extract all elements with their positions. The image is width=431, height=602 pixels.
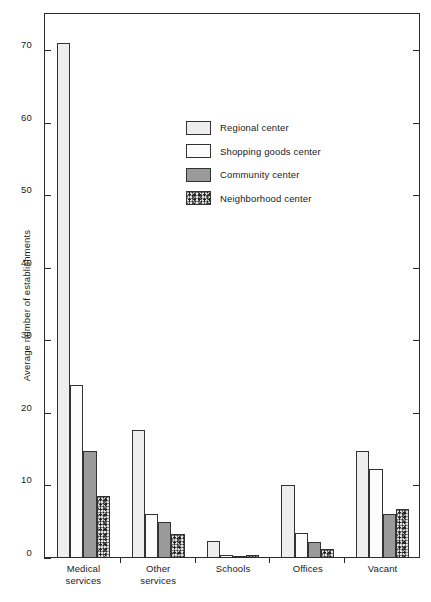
bar: [158, 522, 171, 558]
bar: [132, 430, 145, 558]
y-axis-title: Average number of establishments: [21, 176, 32, 436]
legend-label: Community center: [220, 169, 299, 180]
bar-group: [207, 14, 260, 558]
bar: [308, 542, 321, 558]
legend-item: Regional center: [186, 118, 366, 137]
bar: [383, 514, 396, 558]
x-axis-tick-mark: [120, 558, 121, 563]
x-axis-tick-label-line: Schools: [193, 563, 273, 575]
x-axis-tick-label: Otherservices: [118, 563, 198, 586]
bar-group-bars: [356, 14, 409, 558]
x-axis-tick-mark: [344, 558, 345, 563]
legend-swatch-neighborhood-center: [186, 191, 211, 205]
x-axis-tick-label-line: Vacant: [343, 563, 423, 575]
y-axis-tick-mark: [44, 558, 51, 559]
legend-item: Community center: [186, 165, 366, 184]
plot-area: [45, 14, 419, 558]
x-axis-tick-mark: [269, 558, 270, 563]
bar-group: [281, 14, 334, 558]
bar-group: [356, 14, 409, 558]
bar: [57, 43, 70, 558]
bar-group: [132, 14, 185, 558]
x-axis-tick-label-line: Other: [118, 563, 198, 575]
legend-swatch-community-center: [186, 168, 211, 182]
bar-group-bars: [132, 14, 185, 558]
bar: [207, 541, 220, 558]
x-axis-tick-label-line: services: [43, 575, 123, 587]
legend-item: Neighborhood center: [186, 189, 366, 208]
bar: [145, 514, 158, 558]
legend-label: Neighborhood center: [220, 193, 312, 204]
bar-group-bars: [281, 14, 334, 558]
x-axis-tick-label-line: Offices: [268, 563, 348, 575]
bar: [356, 451, 369, 558]
x-axis-tick-label: Vacant: [343, 563, 423, 575]
x-axis-tick-label: Schools: [193, 563, 273, 575]
bar: [396, 509, 409, 558]
legend-swatch-shopping-goods-center: [186, 144, 211, 158]
bar-group-bars: [207, 14, 260, 558]
bar-group-bars: [57, 14, 110, 558]
bar: [70, 385, 83, 558]
bar: [171, 534, 184, 558]
bar: [369, 469, 382, 558]
legend-label: Regional center: [220, 122, 289, 133]
x-axis-tick-label-line: Medical: [43, 563, 123, 575]
legend: Regional center Shopping goods center Co…: [186, 118, 366, 212]
x-axis-tick-mark: [195, 558, 196, 563]
legend-label: Shopping goods center: [220, 146, 321, 157]
bar: [281, 485, 294, 558]
bar: [295, 533, 308, 558]
legend-swatch-regional-center: [186, 121, 211, 135]
bar-group: [57, 14, 110, 558]
bar-chart: 010203040506070 Average number of establ…: [0, 0, 431, 602]
x-axis-tick-label-line: services: [118, 575, 198, 587]
x-axis-tick-label: Offices: [268, 563, 348, 575]
bar: [97, 496, 110, 558]
bar: [83, 451, 96, 558]
x-axis-line: [45, 557, 420, 558]
legend-item: Shopping goods center: [186, 142, 366, 161]
x-axis-tick-label: Medicalservices: [43, 563, 123, 586]
